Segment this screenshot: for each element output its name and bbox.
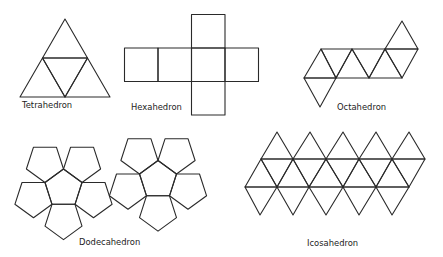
dodecahedron-net [15,139,207,240]
tetrahedron-net [20,19,110,97]
triangle-face [43,19,88,58]
square-face [225,48,259,82]
triangle-face [326,132,359,159]
hexahedron-label: Hexahedron [131,102,182,112]
triangle-face [277,159,309,187]
triangle-face [385,21,418,49]
triangle-face [304,78,336,107]
triangle-face [359,159,392,187]
pentagon-face [170,174,207,209]
octahedron-net [304,21,418,107]
pentagon-face [45,204,82,239]
pentagon-face [75,183,112,218]
pentagon-face [140,196,177,231]
hexahedron-net [125,15,259,116]
triangle-face [343,159,376,187]
triangle-face [293,159,326,187]
triangle-face [385,49,418,78]
square-face [158,48,192,82]
square-face [192,48,226,82]
triangle-face [245,187,277,215]
polyhedra-nets-diagram: Tetrahedron Hexahedron Octahedron Dodeca… [0,0,443,257]
triangle-face [245,159,277,187]
triangle-face [326,159,359,187]
triangle-face [336,49,369,78]
triangle-face [343,187,376,215]
triangle-face [309,187,343,215]
triangle-face [376,187,409,215]
triangle-face [20,58,65,97]
triangle-face [261,132,293,159]
triangle-face [309,159,343,187]
octahedron-label: Octahedron [337,102,386,112]
triangle-face [65,58,110,97]
triangle-face [369,49,402,78]
pentagon-face [121,139,158,174]
triangle-face [392,159,425,187]
pentagon-face [109,174,146,209]
pentagon-face [26,147,63,182]
pentagon-face [15,183,52,218]
square-face [192,15,226,49]
square-face [125,48,159,82]
triangle-face [261,159,293,187]
triangle-face [277,187,309,215]
triangle-face [392,132,425,159]
triangle-face [43,58,88,97]
icosahedron-net [245,132,425,215]
pentagon-face [158,139,195,174]
triangle-face [376,159,409,187]
triangle-face [304,49,336,78]
triangle-face [293,132,326,159]
dodecahedron-label: Dodecahedron [79,237,140,247]
square-face [192,82,226,116]
triangle-face [359,132,392,159]
triangle-face [321,49,352,78]
pentagon-face [64,147,101,182]
tetrahedron-label: Tetrahedron [21,100,72,110]
triangle-face [352,49,385,78]
icosahedron-label: Icosahedron [307,238,358,248]
